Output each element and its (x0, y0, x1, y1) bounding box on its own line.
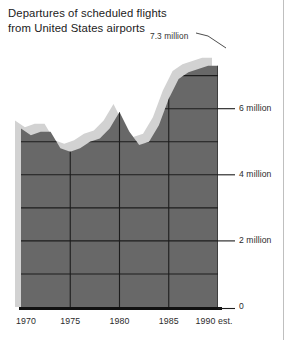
chart-figure: Departures of scheduled flights from Uni… (0, 0, 295, 340)
x-axis-label-1980: 1980 (92, 316, 148, 326)
y-axis-label-4: 4 million (239, 169, 271, 179)
annotation-leader-line (196, 33, 226, 48)
y-axis-label-0: 0 (239, 301, 244, 311)
peak-value-annotation: 7.3 million (150, 31, 188, 41)
x-axis-label-1975: 1975 (42, 316, 98, 326)
axis-baseline (19, 307, 222, 310)
x-axis-label-1990: 1990 est. (186, 316, 242, 326)
y-axis-label-2: 2 million (239, 235, 271, 245)
y-axis-label-6: 6 million (239, 103, 271, 113)
